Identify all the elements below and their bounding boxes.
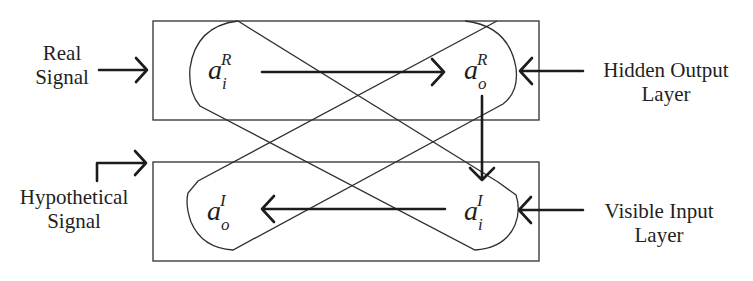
real-signal-arrow	[99, 58, 147, 82]
real-signal-label: Real Signal	[22, 41, 102, 89]
visible-input-layer-label: Visible Input Layer	[584, 199, 734, 247]
lower-backward-arrow	[262, 196, 445, 222]
node-base: a	[207, 195, 221, 226]
node-a-i-I: a I i	[464, 197, 478, 225]
hypothetical-signal-line2: Signal	[4, 209, 144, 233]
node-base: a	[464, 195, 478, 226]
real-signal-line1: Real	[22, 41, 102, 65]
hidden-output-line1: Hidden Output	[586, 58, 746, 82]
node-subscript: i	[222, 70, 227, 98]
visible-input-line1: Visible Input	[584, 199, 734, 223]
lower-right-node-top	[238, 21, 498, 182]
node-a-o-R: a R o	[464, 56, 478, 84]
visible-input-arrow	[519, 197, 583, 223]
real-signal-line2: Signal	[22, 65, 102, 89]
node-subscript: o	[478, 70, 487, 98]
node-base: a	[208, 54, 222, 85]
hypothetical-signal-arrow	[97, 151, 146, 181]
hidden-output-arrow	[520, 58, 583, 84]
hidden-output-layer-label: Hidden Output Layer	[586, 58, 746, 106]
hidden-output-line2: Layer	[586, 82, 746, 106]
node-subscript: i	[478, 211, 483, 239]
node-subscript: o	[221, 211, 230, 239]
node-base: a	[464, 54, 478, 85]
node-a-i-R: a R i	[208, 56, 222, 84]
visible-input-line2: Layer	[584, 223, 734, 247]
node-a-o-I: a I o	[207, 197, 221, 225]
hypothetical-signal-label: Hypothetical Signal	[4, 185, 144, 233]
upper-forward-arrow	[262, 59, 444, 85]
hypothetical-signal-line1: Hypothetical	[4, 185, 144, 209]
